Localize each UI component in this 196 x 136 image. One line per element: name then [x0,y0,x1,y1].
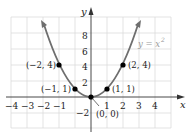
y-tick-labels: 8 6 4 2 −2 [76,31,89,118]
svg-text:y = x: y = x [137,39,160,49]
curve-arrow-left-icon [41,20,47,28]
curve-equation-label: y = x 2 [137,36,165,49]
svg-text:(2, 4): (2, 4) [128,60,151,70]
svg-text:8: 8 [82,31,88,41]
y-axis-label: y [80,6,87,17]
svg-text:2: 2 [82,78,88,88]
svg-text:(1, 1): (1, 1) [112,84,135,94]
point-2-4 [120,62,125,67]
svg-text:4: 4 [82,62,88,72]
curve-arrow-right-icon [135,20,141,28]
svg-text:2: 2 [120,101,126,111]
svg-text:6: 6 [82,47,88,57]
svg-text:−1: −1 [53,101,66,111]
svg-text:−2: −2 [76,108,89,118]
origin-leader-line [92,98,99,106]
svg-text:3: 3 [136,101,142,111]
svg-text:−2: −2 [37,101,50,111]
svg-text:(−1, 1): (−1, 1) [41,84,71,94]
svg-text:−3: −3 [21,101,35,111]
point-neg1-1 [72,86,77,91]
svg-text:2: 2 [160,36,165,43]
x-axis-label: x [180,99,186,110]
y-axis-arrow-icon [89,7,94,15]
axes [6,12,180,132]
svg-text:(0, 0): (0, 0) [96,109,119,119]
point-1-1 [104,86,109,91]
svg-text:(−2, 4): (−2, 4) [26,60,56,70]
svg-text:4: 4 [152,101,158,111]
point-neg2-4 [56,62,61,67]
parabola-graph: −4 −3 −2 −1 1 2 3 4 8 6 4 2 −2 x y y = x… [0,0,196,136]
svg-text:−4: −4 [5,101,19,111]
